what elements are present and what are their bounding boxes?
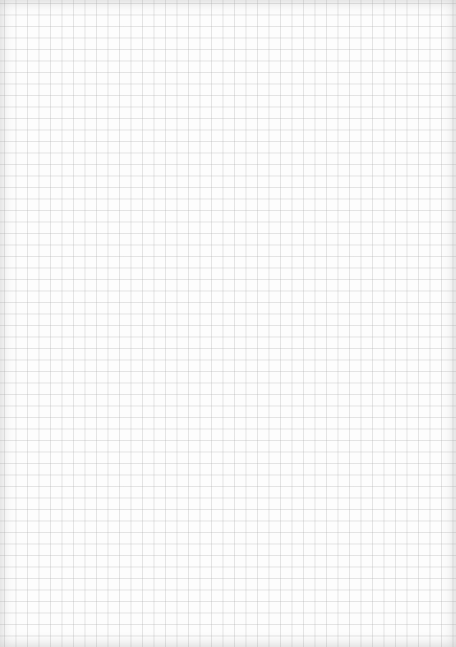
grid-paper-sheet [0, 0, 456, 647]
edge-shading [0, 0, 456, 647]
